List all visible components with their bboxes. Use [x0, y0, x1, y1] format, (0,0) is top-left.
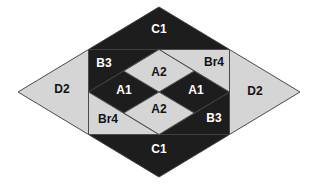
label-c1-top: C1 — [151, 22, 167, 36]
label-a1-right: A1 — [188, 83, 204, 97]
piece-d2-left — [18, 50, 89, 135]
label-br4-top-right: Br4 — [204, 55, 224, 69]
label-c1-bottom: C1 — [151, 142, 167, 156]
label-d2-right: D2 — [247, 84, 263, 98]
label-b3-bottom-right: B3 — [206, 111, 222, 125]
piece-d2-right — [230, 50, 301, 135]
label-a2-top: A2 — [151, 65, 167, 79]
label-b3-top-left: B3 — [96, 56, 112, 70]
label-br4-bottom-left: Br4 — [98, 112, 118, 126]
diamond-block-svg: C1 C1 B3 B3 A1 A1 D2 D2 Br4 Br4 A2 A2 — [0, 0, 316, 185]
label-a2-bottom: A2 — [151, 102, 167, 116]
label-d2-left: D2 — [54, 82, 70, 96]
label-a1-left: A1 — [116, 83, 132, 97]
quilt-block-diagram: C1 C1 B3 B3 A1 A1 D2 D2 Br4 Br4 A2 A2 — [0, 0, 316, 185]
